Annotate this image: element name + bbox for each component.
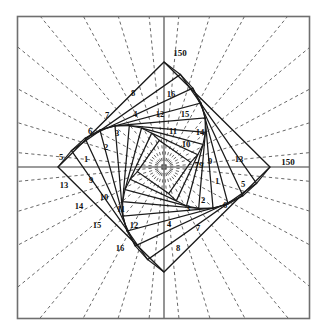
cell-label-q3-12: 12: [130, 221, 139, 230]
axis-value-label-right-150: 150: [281, 158, 295, 167]
cell-label-q2-2: 2: [104, 143, 108, 152]
cell-label-q2-6: 6: [88, 127, 92, 136]
cell-label-q4-5: 5: [241, 180, 245, 189]
cell-label-q1-12: 12: [156, 110, 165, 119]
cell-label-q1-11: 11: [169, 127, 177, 136]
cell-label-q3-9: 9: [89, 176, 93, 185]
cell-label-q1-9: 9: [208, 157, 212, 166]
cell-label-q2-5: 5: [59, 153, 63, 162]
cell-label-q1-10: 10: [182, 140, 191, 149]
cell-label-q2-4: 4: [133, 110, 137, 119]
cell-label-q4-8: 8: [176, 244, 180, 253]
cell-label-q4-7: 7: [196, 224, 200, 233]
cell-label-q1-13: 13: [235, 155, 244, 164]
diagram-canvas: [0, 0, 326, 332]
cell-label-q4-1: 1: [215, 177, 219, 186]
cell-label-q2-8: 8: [131, 89, 135, 98]
cell-label-q4-3: 3: [186, 204, 190, 213]
cell-label-q3-11: 11: [117, 205, 125, 214]
cell-label-q3-10: 10: [100, 193, 109, 202]
cell-label-q2-3: 3: [115, 129, 119, 138]
cell-label-q3-15: 15: [93, 221, 102, 230]
cell-label-q2-7: 7: [105, 111, 109, 120]
cell-label-q4-2: 2: [201, 196, 205, 205]
center-value-label: 79: [195, 161, 204, 170]
cell-label-q3-14: 14: [75, 202, 84, 211]
cell-label-q4-6: 6: [223, 201, 227, 210]
axis-value-label-top-150: 150: [173, 49, 187, 58]
cell-label-q1-15: 15: [181, 110, 190, 119]
cell-label-q2-1: 1: [84, 155, 88, 164]
cell-label-q3-13: 13: [60, 181, 69, 190]
cell-label-q1-14: 14: [196, 128, 205, 137]
cell-label-q4-4: 4: [167, 220, 171, 229]
cell-label-q3-16: 16: [116, 244, 125, 253]
cell-label-q1-16: 16: [167, 90, 176, 99]
